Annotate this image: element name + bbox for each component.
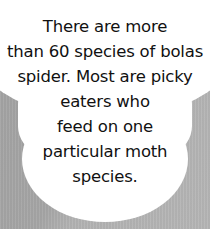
callout-line: particular moth xyxy=(0,139,210,164)
fact-callout-text: There are more than 60 species of bolas … xyxy=(0,14,210,189)
callout-line: spider. Most are picky xyxy=(0,64,210,89)
callout-line: than 60 species of bolas xyxy=(0,39,210,64)
callout-line: species. xyxy=(0,164,210,189)
callout-line: feed on one xyxy=(0,114,210,139)
callout-line: eaters who xyxy=(0,89,210,114)
callout-line: There are more xyxy=(0,14,210,39)
